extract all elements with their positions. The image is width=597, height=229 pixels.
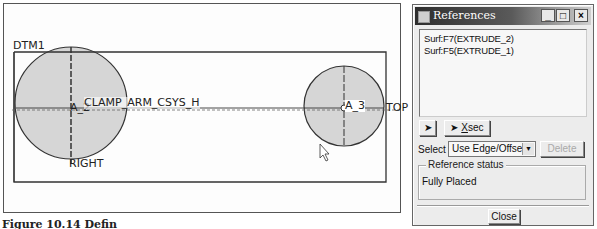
status-group-label: Reference status [426,159,506,170]
select-dropdown[interactable]: Use Edge/Offset ▼ [448,141,536,157]
chevron-down-icon[interactable]: ▼ [522,143,534,155]
close-button[interactable]: Close [488,209,520,224]
datum-label-dtm1[interactable]: DTM1 [13,40,45,52]
reference-status-group: Reference status Fully Placed [418,165,586,200]
axis-label-a3[interactable]: A_3 [345,100,365,112]
csys-label[interactable]: CLAMP_ARM_CSYS_H [84,97,200,109]
maximize-button[interactable]: □ [556,9,570,22]
list-item[interactable]: Surf:F7(EXTRUDE_2) [424,33,582,45]
arrow-cursor-icon: ➤ [424,121,432,134]
pick-secondary-button[interactable]: ➤ Xsec [444,120,490,136]
minimize-button[interactable]: _ [541,9,555,22]
pick-sec-label: sec [468,122,484,133]
window-icon [418,11,430,23]
status-value: Fully Placed [422,176,476,187]
datum-label-top[interactable]: TOP [386,102,408,114]
figure-caption: Figure 10.14 Defin [2,218,117,229]
select-label: Select [418,144,446,155]
datum-label-right[interactable]: RIGHT [69,158,103,170]
pick-reference-button[interactable]: ➤ [419,120,436,136]
divider [417,205,589,207]
select-value: Use Edge/Offset [452,143,525,154]
sketch-geometry [4,4,402,214]
dialog-titlebar[interactable]: References _ □ × [415,7,591,25]
arrow-cursor-icon: ➤ [450,121,458,134]
close-window-button[interactable]: × [574,9,588,22]
references-list[interactable]: Surf:F7(EXTRUDE_2) Surf:F5(EXTRUDE_1) [419,29,587,117]
references-dialog: References _ □ × Surf:F7(EXTRUDE_2) Surf… [412,4,594,226]
dialog-title: References [433,9,496,23]
model-viewport[interactable]: DTM1 A_2 CLAMP_ARM_CSYS_H A_3 RIGHT TOP [3,3,401,213]
list-item[interactable]: Surf:F5(EXTRUDE_1) [424,45,582,57]
pick-sec-prefix: X [461,122,468,133]
delete-button[interactable]: Delete [540,141,584,157]
